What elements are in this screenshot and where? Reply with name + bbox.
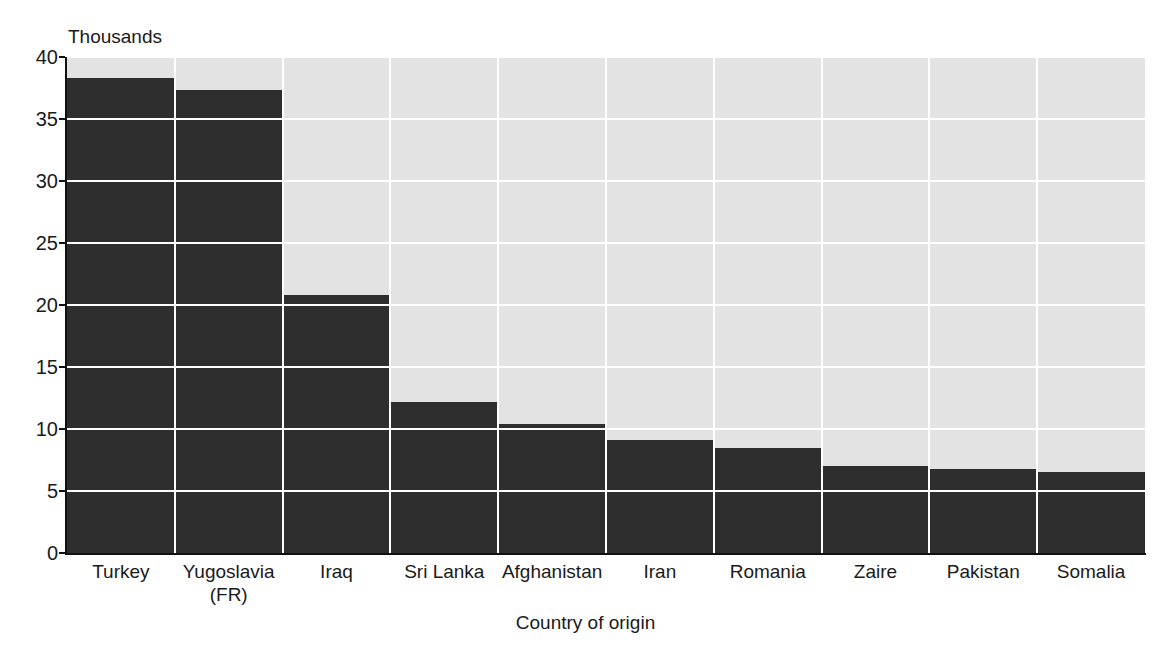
x-axis-tick-label-line: Sri Lanka	[404, 561, 484, 582]
bar	[498, 424, 606, 553]
y-axis-tick-label: 35	[2, 109, 58, 129]
x-axis-tick-label-line: Pakistan	[947, 561, 1020, 582]
bar	[822, 466, 930, 553]
x-axis-tick-label-line: Yugoslavia	[183, 561, 275, 582]
y-axis-tick-label: 25	[2, 233, 58, 253]
y-axis-tick-label: 0	[2, 543, 58, 563]
y-axis-tick-label: 10	[2, 419, 58, 439]
x-axis-tick-label-line: Afghanistan	[502, 561, 602, 582]
x-axis-title: Country of origin	[0, 612, 1171, 634]
x-axis-tick-label: Somalia	[1023, 560, 1159, 583]
x-axis-line	[65, 553, 1146, 555]
y-axis-tick-label: 30	[2, 171, 58, 191]
bars-layer	[67, 57, 1145, 553]
y-axis-tick-label: 40	[2, 47, 58, 67]
bar	[175, 90, 283, 553]
bar	[714, 448, 822, 553]
y-axis-tick-label: 20	[2, 295, 58, 315]
plot-area	[67, 57, 1145, 553]
bar-chart: Thousands 0510152025303540 TurkeyYugosla…	[0, 0, 1171, 668]
x-axis-tick-label-line: Romania	[730, 561, 806, 582]
bar	[390, 402, 498, 553]
bar	[1037, 472, 1145, 553]
y-axis-tick-label: 5	[2, 481, 58, 501]
bar	[67, 78, 175, 553]
x-axis-tick-label-line: Zaire	[854, 561, 897, 582]
x-axis-tick-label-line: Iraq	[320, 561, 353, 582]
x-axis-tick-label-line: Turkey	[92, 561, 149, 582]
y-axis-unit-caption: Thousands	[68, 26, 162, 48]
x-axis-tick-label-line: Iran	[644, 561, 677, 582]
x-axis-tick-labels: TurkeyYugoslavia(FR)IraqSri LankaAfghani…	[67, 560, 1145, 610]
y-axis-tick-labels: 0510152025303540	[0, 0, 58, 668]
bar	[606, 440, 714, 553]
y-axis-tick-label: 15	[2, 357, 58, 377]
x-axis-tick-label-line: (FR)	[161, 583, 297, 606]
x-axis-tick-label-line: Somalia	[1057, 561, 1126, 582]
bar	[283, 295, 391, 553]
bar	[929, 469, 1037, 553]
